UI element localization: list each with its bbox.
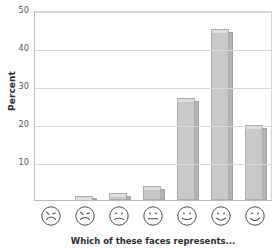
bar-top-highlight	[212, 30, 228, 33]
bar-body	[75, 196, 93, 200]
y-axis-tick-label: 20	[18, 121, 29, 129]
bar-top-highlight	[76, 197, 92, 200]
bar-side-shadow	[229, 32, 233, 200]
neutral-face[interactable]	[136, 203, 170, 229]
bar-slightly-happy-face[interactable]	[177, 12, 199, 200]
x-axis-categories	[34, 203, 272, 231]
face-icon	[108, 205, 130, 227]
y-axis-tick-label: 10	[18, 159, 29, 167]
happy-face[interactable]	[204, 203, 238, 229]
bar-side-shadow	[93, 198, 97, 200]
plot-area	[34, 11, 272, 201]
face-icon	[244, 205, 266, 227]
gridline	[35, 12, 271, 13]
bar-top-highlight	[144, 187, 160, 190]
y-axis-tick-label: 40	[18, 45, 29, 53]
gridline	[35, 88, 271, 89]
face-icon	[40, 205, 62, 227]
bar-happy-face[interactable]	[211, 12, 233, 200]
bar-unhappy-face[interactable]	[75, 12, 97, 200]
gridline	[35, 164, 271, 165]
bar-body	[109, 193, 127, 200]
bar-top-highlight	[178, 99, 194, 102]
face-icon	[210, 205, 232, 227]
bar-body	[211, 29, 229, 200]
face-icon	[176, 205, 198, 227]
x-axis-title: Which of these faces represents...	[34, 236, 272, 246]
very-happy-face[interactable]	[238, 203, 272, 229]
bar-slightly-unhappy-face[interactable]	[109, 12, 131, 200]
face-icon	[142, 205, 164, 227]
bar-top-highlight	[110, 194, 126, 197]
slightly-unhappy-face[interactable]	[102, 203, 136, 229]
bar-chart: Percent 1020304050 Which of these faces …	[0, 0, 274, 248]
y-axis-tick-label: 50	[18, 7, 29, 15]
gridline	[35, 126, 271, 127]
bar-side-shadow	[161, 189, 165, 200]
bar-side-shadow	[127, 196, 131, 200]
bar-very-unhappy-face[interactable]	[41, 12, 63, 200]
bar-neutral-face[interactable]	[143, 12, 165, 200]
slightly-happy-face[interactable]	[170, 203, 204, 229]
bar-body	[177, 98, 195, 200]
face-icon	[74, 205, 96, 227]
bar-very-happy-face[interactable]	[245, 12, 267, 200]
very-unhappy-face[interactable]	[34, 203, 68, 229]
unhappy-face[interactable]	[68, 203, 102, 229]
gridline	[35, 50, 271, 51]
bar-body	[143, 186, 161, 200]
bars-layer	[35, 12, 271, 200]
bar-side-shadow	[195, 101, 199, 200]
y-axis-tick-label: 30	[18, 83, 29, 91]
y-axis-tick-labels: 1020304050	[0, 0, 34, 248]
bar-body	[245, 125, 263, 200]
